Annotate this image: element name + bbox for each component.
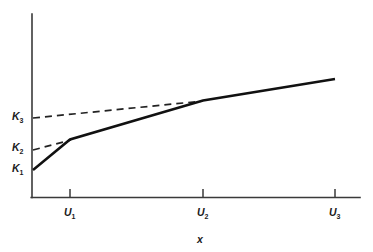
- y-tick-label-k1: K1: [12, 162, 24, 176]
- tangent-line-from-k2: [33, 140, 71, 150]
- x-axis-title: x: [196, 233, 204, 245]
- line-chart-canvas: K1 K2 K3 U1 U2 U3 x: [0, 0, 373, 252]
- main-curve: [33, 79, 335, 170]
- x-tick-label-u1: U1: [64, 206, 76, 220]
- y-tick-label-k2: K2: [12, 141, 24, 155]
- x-tick-label-u3: U3: [329, 206, 341, 220]
- y-tick-label-k3: K3: [12, 110, 24, 124]
- tangent-line-from-k3: [33, 101, 203, 118]
- x-tick-label-u2: U2: [197, 206, 209, 220]
- chart-figure: K1 K2 K3 U1 U2 U3 x: [0, 0, 373, 252]
